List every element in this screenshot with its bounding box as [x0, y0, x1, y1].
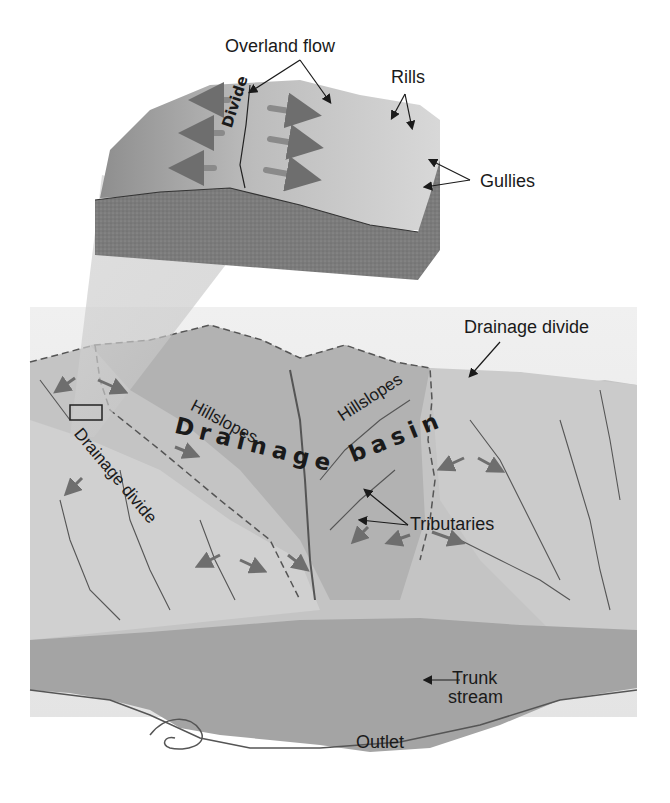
label-outlet: Outlet	[356, 733, 404, 751]
label-stream: stream	[448, 688, 503, 706]
label-tributaries: Tributaries	[410, 515, 494, 533]
drainage-basin-illustration	[0, 0, 670, 803]
label-rills: Rills	[391, 68, 425, 86]
label-drainage-divide-right: Drainage divide	[464, 318, 589, 336]
label-trunk: Trunk	[452, 669, 497, 687]
label-overland-flow: Overland flow	[225, 37, 335, 55]
label-gullies: Gullies	[480, 172, 535, 190]
